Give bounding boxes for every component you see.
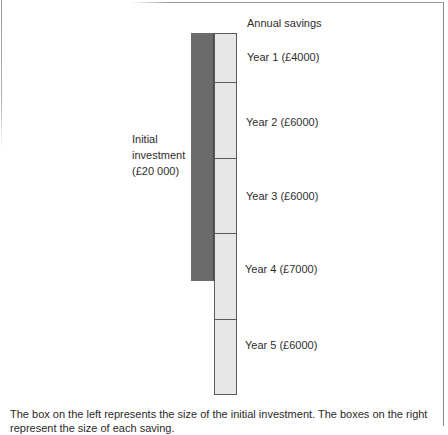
initial-investment-label-line1: Initial — [132, 131, 185, 147]
saving-box-year-1 — [214, 33, 237, 83]
caption-line-2: represent the size of each saving. — [10, 421, 440, 435]
saving-label-year-1: Year 1 (£4000) — [247, 50, 319, 64]
initial-investment-label-line3: (£20 000) — [132, 163, 185, 179]
frame-right-border — [443, 2, 444, 426]
saving-label-year-5: Year 5 (£6000) — [245, 338, 317, 352]
saving-box-year-5 — [214, 319, 237, 395]
annual-savings-heading: Annual savings — [247, 16, 322, 30]
initial-investment-label: Initial investment (£20 000) — [132, 131, 185, 179]
caption-line-1: The box on the left represents the size … — [10, 407, 440, 421]
saving-label-year-2: Year 2 (£6000) — [246, 115, 318, 129]
saving-box-year-3 — [214, 158, 237, 234]
saving-label-year-4: Year 4 (£7000) — [245, 262, 317, 276]
initial-investment-bar — [191, 33, 214, 281]
initial-investment-label-line2: investment — [132, 147, 185, 163]
saving-label-year-3: Year 3 (£6000) — [246, 189, 318, 203]
frame-left-border — [1, 0, 2, 150]
saving-box-year-4 — [214, 233, 237, 320]
figure-caption: The box on the left represents the size … — [10, 407, 440, 435]
frame-top-border — [130, 2, 444, 3]
saving-box-year-2 — [214, 82, 237, 159]
